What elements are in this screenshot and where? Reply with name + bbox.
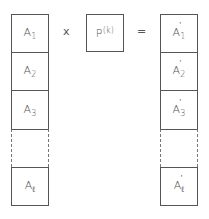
cell-a1-prime: A′1 xyxy=(160,14,198,52)
cell-a2-prime: A′2 xyxy=(160,52,198,90)
cell-a1: A1 xyxy=(11,14,49,52)
cell-a3: A3 xyxy=(11,90,49,129)
label-al: Aℓ xyxy=(25,179,36,194)
label-p-k: P(k) xyxy=(96,26,114,40)
cell-ellipsis-gap-prime xyxy=(160,129,198,167)
matrix-p-box: P(k) xyxy=(86,14,124,52)
label-a3: A3 xyxy=(23,103,36,118)
cell-a3-prime: A′3 xyxy=(160,90,198,129)
label-al-prime: A′ℓ xyxy=(174,179,185,194)
label-a2: A2 xyxy=(23,64,36,79)
equals-operator: = xyxy=(137,25,146,38)
label-a3-prime: A′3 xyxy=(172,103,185,118)
label-a2-prime: A′2 xyxy=(172,64,185,79)
cell-al-prime: A′ℓ xyxy=(160,167,198,206)
label-a1: A1 xyxy=(23,26,36,41)
multiply-operator: x xyxy=(63,25,70,38)
cell-ellipsis-gap xyxy=(11,129,49,167)
label-a1-prime: A′1 xyxy=(172,26,185,41)
cell-al: Aℓ xyxy=(11,167,49,206)
right-column: A′1 A′2 A′3 A′ℓ xyxy=(160,14,198,206)
left-column: A1 A2 A3 Aℓ xyxy=(11,14,49,206)
cell-a2: A2 xyxy=(11,52,49,90)
